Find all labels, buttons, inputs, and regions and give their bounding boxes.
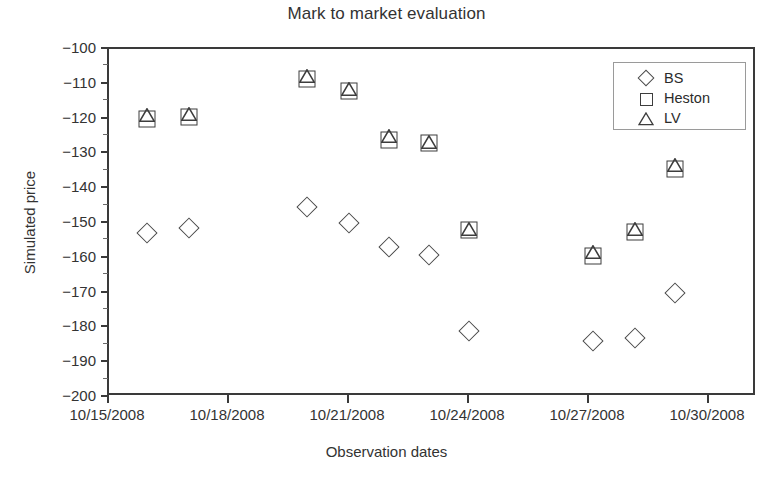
x-axis-title: Observation dates [0,443,773,460]
x-tick-mark [587,395,589,403]
x-tick-mark [467,395,469,403]
chart-container: Mark to market evaluation Simulated pric… [0,0,773,480]
marker-triangle-icon [341,82,357,96]
marker-triangle-icon [181,107,197,121]
y-tick-mark [101,82,108,84]
y-tick-mark [101,325,108,327]
legend-triangle-icon [637,109,655,127]
legend-item-heston[interactable]: Heston [614,88,745,108]
marker-triangle-icon [627,222,643,236]
y-tick-minor [103,273,108,274]
y-tick-label: −160 [18,247,96,264]
legend-label: BS [664,70,683,86]
y-tick-mark [101,151,108,153]
legend-item-bs[interactable]: BS [614,68,745,88]
y-tick-label: −120 [18,108,96,125]
y-tick-mark [101,221,108,223]
marker-triangle-icon [461,222,477,236]
y-tick-mark [101,47,108,49]
legend-label: LV [664,110,681,126]
y-tick-label: −110 [18,73,96,90]
legend-diamond-icon [637,69,655,87]
x-tick-label: 10/21/2008 [282,406,412,423]
y-tick-mark [101,256,108,258]
x-tick-mark [347,395,349,403]
y-tick-minor [103,343,108,344]
y-tick-minor [103,378,108,379]
y-tick-mark [101,117,108,119]
x-tick-mark [707,395,709,403]
x-tick-mark [107,395,109,403]
y-tick-minor [103,134,108,135]
y-tick-minor [103,204,108,205]
y-tick-label: −150 [18,213,96,230]
x-tick-label: 10/18/2008 [162,406,292,423]
y-tick-mark [101,360,108,362]
marker-triangle-icon [585,245,601,259]
marker-triangle-icon [421,135,437,149]
marker-triangle-icon [139,108,155,122]
y-tick-mark [101,291,108,293]
y-tick-label: −170 [18,282,96,299]
chart-title: Mark to market evaluation [0,4,773,24]
x-tick-label: 10/27/2008 [522,406,652,423]
legend-label: Heston [664,90,710,106]
y-tick-label: −190 [18,352,96,369]
y-tick-label: −100 [18,39,96,56]
y-tick-minor [103,64,108,65]
legend-square-icon [637,89,655,107]
y-tick-mark [101,186,108,188]
y-tick-minor [103,99,108,100]
y-tick-minor [103,308,108,309]
marker-triangle-icon [667,158,683,172]
y-tick-minor [103,238,108,239]
y-tick-minor [103,169,108,170]
marker-triangle-icon [381,129,397,143]
x-tick-label: 10/24/2008 [402,406,532,423]
legend-item-lv[interactable]: LV [614,108,745,128]
y-tick-label: −130 [18,143,96,160]
x-tick-mark [227,395,229,403]
y-tick-label: −140 [18,178,96,195]
x-tick-label: 10/15/2008 [42,406,172,423]
marker-triangle-icon [299,69,315,83]
chart-legend: BSHestonLV [613,62,746,130]
y-tick-label: −180 [18,317,96,334]
y-tick-label: −200 [18,387,96,404]
x-tick-label: 10/30/2008 [642,406,772,423]
